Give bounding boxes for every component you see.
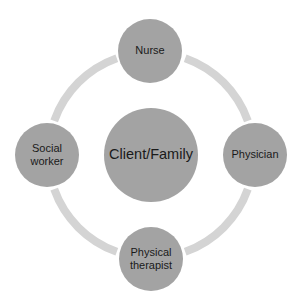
ring-arc-socialworker-nurse [54, 58, 117, 121]
ring-arc-physician-therapist [185, 189, 248, 252]
care-team-diagram: Nurse Physician Physical therapist Socia… [0, 0, 301, 303]
node-social-worker-label: Social worker [30, 142, 63, 168]
node-nurse-label: Nurse [135, 44, 164, 57]
node-physician-label: Physician [231, 148, 278, 161]
node-social-worker: Social worker [15, 123, 79, 187]
node-physical-therapist: Physical therapist [119, 227, 183, 291]
node-physician: Physician [223, 123, 287, 187]
node-client-family: Client/Family [104, 108, 198, 202]
node-client-family-label: Client/Family [109, 146, 193, 163]
ring-arc-therapist-socialworker [54, 189, 117, 252]
ring-arc-nurse-physician [185, 58, 248, 121]
node-nurse: Nurse [118, 19, 182, 83]
node-physical-therapist-label: Physical therapist [130, 246, 172, 272]
